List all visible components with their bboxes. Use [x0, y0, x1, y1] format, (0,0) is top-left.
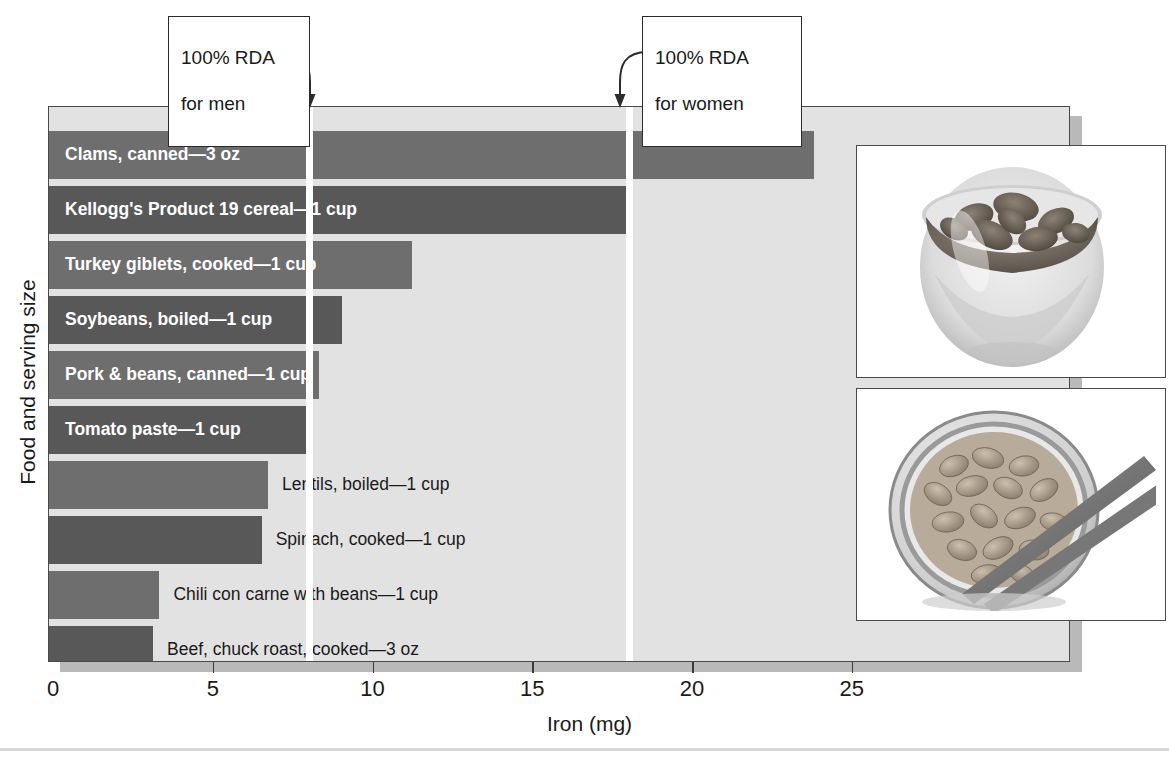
bar	[49, 626, 153, 662]
cereal-bowl-photo-inner	[866, 155, 1156, 368]
cereal-bowl-illustration-icon	[866, 155, 1156, 368]
x-axis-tick-label: 25	[840, 676, 864, 702]
rda-line-women	[626, 107, 633, 661]
bar	[49, 461, 268, 509]
bar-label: Clams, canned—3 oz	[65, 146, 240, 164]
beans-bowl-photo-inner	[866, 398, 1156, 611]
bar-label: Turkey giblets, cooked—1 cup	[65, 256, 317, 274]
x-axis-tick	[532, 662, 534, 673]
bar-label: Soybeans, boiled—1 cup	[65, 311, 272, 329]
callout-rda-women: 100% RDA for women	[642, 16, 802, 147]
bar-label: Tomato paste—1 cup	[65, 421, 241, 439]
chart-figure: 100% RDA for men 100% RDA for women Clam…	[0, 0, 1169, 760]
x-axis-tick-label: 0	[47, 676, 59, 702]
callout-rda-women-line2: for women	[655, 92, 791, 115]
x-axis-tick-labels: 0510152025	[0, 676, 1169, 710]
x-axis-tick-label: 15	[520, 676, 544, 702]
bottom-rule	[0, 748, 1169, 751]
bar	[49, 571, 159, 619]
beans-bowl-photo	[856, 388, 1166, 621]
x-axis-tick	[373, 662, 375, 673]
beans-bowl-illustration-icon	[866, 398, 1156, 611]
x-axis-tick-label: 20	[680, 676, 704, 702]
x-axis-tick-label: 5	[207, 676, 219, 702]
x-axis-tick	[213, 662, 215, 673]
rda-line-men	[306, 107, 313, 661]
bar-label: Pork & beans, canned—1 cup	[65, 366, 311, 384]
x-axis-ticks	[0, 662, 1169, 676]
callout-rda-women-line1: 100% RDA	[655, 46, 791, 69]
bar	[49, 516, 262, 564]
cereal-bowl-photo	[856, 145, 1166, 378]
x-axis-tick	[692, 662, 694, 673]
callout-rda-men-line2: for men	[181, 92, 299, 115]
x-axis-tick	[852, 662, 854, 673]
callout-rda-men: 100% RDA for men	[168, 16, 310, 147]
bar-label: Beef, chuck roast, cooked—3 oz	[167, 641, 419, 659]
bar-label: Spinach, cooked—1 cup	[276, 531, 466, 549]
x-axis-title: Iron (mg)	[0, 712, 1169, 736]
x-axis-tick-label: 10	[360, 676, 384, 702]
y-axis-title: Food and serving size	[16, 202, 40, 562]
x-axis-title-text: Iron (mg)	[547, 712, 632, 736]
callout-rda-men-line1: 100% RDA	[181, 46, 299, 69]
bar-label: Kellogg's Product 19 cereal—1 cup	[65, 201, 357, 219]
